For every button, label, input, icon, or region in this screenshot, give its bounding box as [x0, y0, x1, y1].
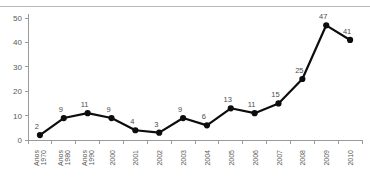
data-point-label: 9 — [106, 105, 110, 114]
x-tick-label-line: Anos — [33, 150, 40, 166]
x-tick-label-line: 2003 — [180, 150, 187, 166]
data-point-marker — [299, 76, 305, 82]
x-tick-label-line: 2001 — [132, 150, 139, 166]
x-tick-label-line: 2002 — [156, 150, 163, 166]
x-tick-label: 2009 — [323, 150, 330, 166]
x-tick-label: 2008 — [299, 150, 306, 166]
data-point-label: 9 — [59, 105, 63, 114]
line-chart: 01020304050 291194396131115254741 Anos19… — [0, 0, 370, 177]
x-tick-label: 2006 — [252, 150, 259, 166]
data-point-marker — [85, 110, 91, 116]
data-point-label: 6 — [202, 112, 206, 121]
x-tick-label: 2001 — [132, 150, 139, 166]
data-point-label: 41 — [343, 27, 351, 36]
x-tick-label: 2007 — [276, 150, 283, 166]
data-point-marker — [252, 110, 258, 116]
x-tick-label-line: 2008 — [299, 150, 306, 166]
data-point-marker — [347, 37, 353, 43]
y-tick-label: 20 — [13, 87, 22, 96]
x-tick-label-line: 1990 — [88, 150, 95, 166]
data-point-marker — [132, 127, 138, 133]
x-tick-label-line: 2006 — [252, 150, 259, 166]
data-point-label: 47 — [319, 12, 327, 21]
x-tick-label-line: Anos — [81, 150, 88, 166]
data-point-marker — [275, 100, 281, 106]
x-tick-label-line: 1970 — [40, 150, 47, 166]
x-tick-label: Anos1990 — [81, 150, 95, 166]
y-axis-group: 01020304050 — [13, 14, 28, 145]
x-tick-label: 2004 — [204, 150, 211, 166]
y-tick-label: 40 — [13, 38, 22, 47]
series-group — [37, 22, 353, 138]
x-tick-label: Anos1980 — [57, 150, 71, 166]
data-point-label: 2 — [35, 122, 39, 131]
x-axis-group — [28, 140, 362, 144]
data-point-label: 9 — [178, 105, 182, 114]
x-tick-label: 2005 — [228, 150, 235, 166]
x-tick-label-line: 2007 — [276, 150, 283, 166]
x-tick-label-line: 2004 — [204, 150, 211, 166]
y-tick-label: 50 — [13, 14, 22, 23]
data-point-marker — [180, 115, 186, 121]
chart-screenshot: 01020304050 291194396131115254741 Anos19… — [0, 0, 370, 177]
x-tick-label-line: 2009 — [323, 150, 330, 166]
x-tick-label-line: 2005 — [228, 150, 235, 166]
x-tick-label: 2002 — [156, 150, 163, 166]
data-point-label: 13 — [224, 95, 232, 104]
y-tick-label: 30 — [13, 63, 22, 72]
x-tick-label: Anos1970 — [33, 150, 47, 166]
chart-canvas: 01020304050 291194396131115254741 Anos19… — [0, 0, 370, 177]
data-point-marker — [37, 132, 43, 138]
x-tick-label-line: 1980 — [64, 150, 71, 166]
data-point-marker — [61, 115, 67, 121]
x-tick-label-line: Anos — [57, 150, 64, 166]
x-tick-label: 2000 — [109, 150, 116, 166]
y-tick-label: 10 — [13, 112, 22, 121]
data-point-label: 25 — [295, 66, 303, 75]
data-point-label: 11 — [81, 100, 89, 109]
x-tick-label-line: 2000 — [109, 150, 116, 166]
data-point-marker — [204, 122, 210, 128]
x-tick-label-line: 2010 — [347, 150, 354, 166]
x-tick-label: 2003 — [180, 150, 187, 166]
data-point-marker — [108, 115, 114, 121]
y-tick-label: 0 — [18, 136, 23, 145]
x-tick-label: 2010 — [347, 150, 354, 166]
data-point-marker — [228, 105, 234, 111]
data-point-marker — [323, 22, 329, 28]
data-point-label: 15 — [271, 90, 279, 99]
data-point-label: 3 — [154, 120, 158, 129]
x-tick-label-group: Anos1970Anos1980Anos19902000200120022003… — [33, 150, 354, 166]
data-point-label: 4 — [130, 117, 134, 126]
data-point-label: 11 — [248, 100, 256, 109]
data-point-marker — [156, 130, 162, 136]
